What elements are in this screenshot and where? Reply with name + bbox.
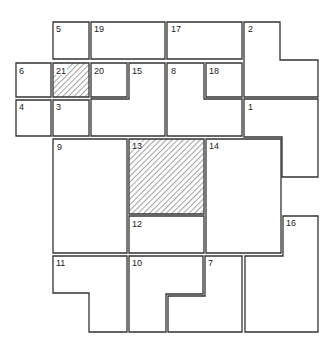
piece-label: 7 xyxy=(208,258,213,268)
piece-18: 18 xyxy=(206,63,242,97)
piece-21: 21 xyxy=(53,63,89,97)
piece-label: 5 xyxy=(56,24,61,34)
piece-label: 12 xyxy=(132,219,142,229)
piece-label: 3 xyxy=(56,102,61,112)
piece-label: 16 xyxy=(286,218,296,228)
piece-label: 9 xyxy=(57,142,62,152)
piece-label: 10 xyxy=(132,258,142,268)
piece-label: 13 xyxy=(132,141,142,151)
piece-6: 6 xyxy=(16,63,51,97)
piece-label: 14 xyxy=(209,141,219,151)
piece-label: 6 xyxy=(19,66,24,76)
piece-20: 20 xyxy=(91,63,127,97)
puzzle-diagram: 5 19 17 2 6 21 20 15 8 18 xyxy=(0,0,333,345)
piece-9: 9 xyxy=(53,139,127,253)
piece-label: 21 xyxy=(56,66,66,76)
piece-label: 1 xyxy=(248,102,253,112)
piece-3: 3 xyxy=(53,100,89,136)
piece-11: 11 xyxy=(53,256,127,332)
piece-label: 4 xyxy=(19,102,24,112)
piece-2: 2 xyxy=(244,22,318,97)
piece-label: 17 xyxy=(171,24,181,34)
piece-17: 17 xyxy=(167,22,242,59)
piece-label: 8 xyxy=(171,66,176,76)
piece-label: 19 xyxy=(94,24,104,34)
piece-19: 19 xyxy=(91,22,165,59)
piece-14: 14 xyxy=(206,139,281,253)
piece-label: 2 xyxy=(248,24,253,34)
piece-4: 4 xyxy=(16,100,51,136)
piece-label: 20 xyxy=(94,66,104,76)
piece-label: 11 xyxy=(56,258,65,268)
piece-label: 15 xyxy=(132,66,142,76)
piece-label: 18 xyxy=(209,66,219,76)
piece-13: 13 xyxy=(129,139,204,214)
piece-5: 5 xyxy=(53,22,89,59)
piece-12: 12 xyxy=(129,216,204,253)
